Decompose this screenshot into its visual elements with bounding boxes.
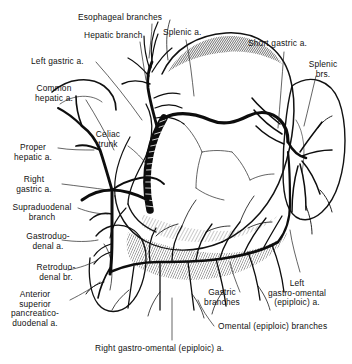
label-left-gastric-a: Left gastric a. <box>31 57 84 67</box>
label-supraduodenal-branch: Supraduodenal branch <box>4 203 80 222</box>
label-proper-hepatic-a: Proper hepatic a. <box>4 143 62 162</box>
label-gastroduodenal-a: Gastroduo- denal a. <box>18 232 78 251</box>
label-short-gastric-a: Short gastric a. <box>248 39 307 49</box>
label-layer: Esophageal branches Hepatic branch Left … <box>0 0 352 364</box>
label-gastric-branches: Gastric branches <box>197 288 247 307</box>
label-anterior-superior-pancreaticoduodenal-a: Anterior superior pancreatico- duodenal … <box>4 290 66 328</box>
anatomical-figure: Esophageal branches Hepatic branch Left … <box>0 0 352 364</box>
label-hepatic-branch: Hepatic branch <box>84 31 143 41</box>
label-right-gastro-omental-epiploic-a: Right gastro-omental (epiploic) a. <box>95 344 224 354</box>
label-splenic-brs: Splenic brs. <box>303 60 343 79</box>
label-left-gastro-omental-epiploic-a: Left gastro-omental (epiploic) a. <box>254 279 340 308</box>
label-common-hepatic-a: Common hepatic a. <box>22 84 86 103</box>
label-retroduodenal-br: Retroduo- denal br. <box>28 263 84 282</box>
label-omental-epiploic-branches: Omental (epiploic) branches <box>218 322 327 332</box>
label-right-gastric-a: Right gastric a. <box>6 175 62 194</box>
label-celiac-trunk: Celiac trunk <box>86 130 130 149</box>
label-splenic-a: Splenic a. <box>163 28 201 38</box>
label-esophageal-branches: Esophageal branches <box>78 13 162 23</box>
